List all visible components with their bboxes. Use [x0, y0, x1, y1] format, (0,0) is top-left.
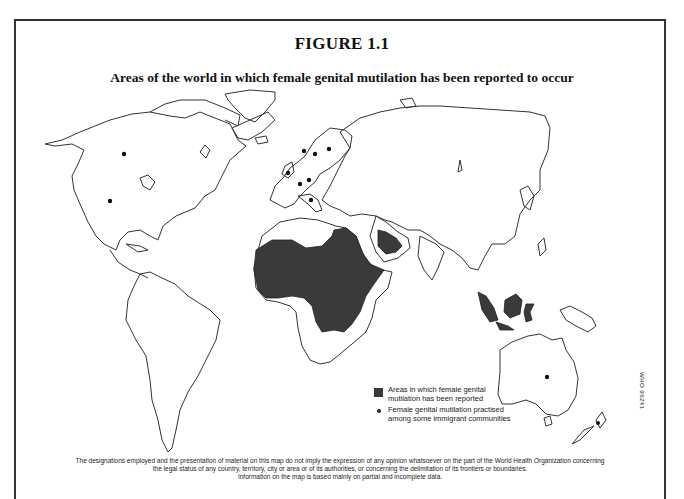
marker-new-zealand: [596, 421, 600, 425]
borneo-shaded-region: [504, 294, 522, 318]
disclaimer-line-1: The designations employed and the presen…: [14, 457, 666, 465]
disclaimer-line-2: the legal status of any country, territo…: [14, 465, 666, 473]
greenland-outline: [225, 90, 275, 122]
marker-italy: [309, 198, 313, 202]
marker-norway: [302, 149, 306, 153]
sulawesi-shaded-region: [524, 304, 534, 322]
disclaimer-line-3: Information on the map is based mainly o…: [14, 473, 666, 481]
marker-germany: [307, 178, 311, 182]
marker-canada: [122, 152, 126, 156]
legend-item-reported-areas: Areas in which female genital mutilation…: [374, 385, 513, 403]
marker-australia: [545, 375, 549, 379]
south-america-outline: [126, 272, 220, 452]
marker-france: [298, 182, 302, 186]
marker-usa: [108, 199, 112, 203]
sumatra-shaded-region: [478, 292, 498, 322]
marker-sweden: [313, 152, 317, 156]
north-america-outline: [45, 112, 246, 250]
legend-label: Female genital mutilation practised amon…: [388, 405, 513, 423]
europe-outline: [270, 128, 352, 208]
arabia-shaded-region: [378, 230, 402, 254]
legend-label: Areas in which female genital mutilation…: [388, 385, 498, 403]
legend-item-immigrant-communities: Female genital mutilation practised amon…: [374, 405, 513, 423]
shaded-area-swatch-icon: [374, 388, 383, 397]
map-legend: Areas in which female genital mutilation…: [374, 385, 513, 425]
marker-finland: [327, 147, 331, 151]
africa-shaded-region: [254, 228, 384, 332]
reference-code: WHO 96241: [639, 372, 645, 410]
dot-marker-icon: [377, 409, 381, 413]
java-shaded-region: [496, 322, 514, 330]
marker-uk: [286, 171, 290, 175]
